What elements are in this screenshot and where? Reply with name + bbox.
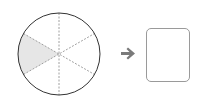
answer-box[interactable]: [146, 28, 190, 82]
arrow-right-icon: [121, 48, 135, 60]
shaded-sector: [18, 34, 59, 75]
